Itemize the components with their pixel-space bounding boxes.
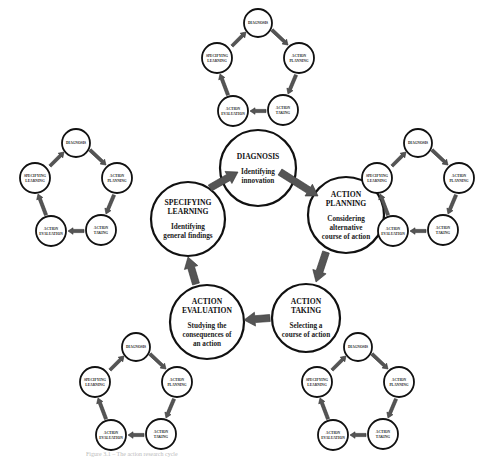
label-line: PLANNING xyxy=(389,383,408,387)
sub-node-specifying-learning: SPECIFYINGLEARNING xyxy=(362,163,392,193)
sub-arrow-3 xyxy=(410,228,426,235)
sub-arrow-2 xyxy=(165,398,176,418)
label-line: ACTION xyxy=(154,430,169,434)
label-line: TAKING xyxy=(376,435,391,439)
sub-node-diagnosis: DIAGNOSIS xyxy=(62,129,90,157)
label-line: EVALUATION xyxy=(39,232,63,236)
label-line: Studying the xyxy=(188,322,227,330)
label-line: PLANNING xyxy=(167,383,186,387)
label-line: LEARNING xyxy=(307,383,327,387)
sub-node-diagnosis: DIAGNOSIS xyxy=(122,333,150,361)
sub-node-action-evaluation: ACTIONEVALUATION xyxy=(378,216,408,246)
label-line: ACTION xyxy=(104,431,119,435)
label-line: LEARNING xyxy=(367,179,387,183)
label-line: PLANNING xyxy=(289,59,308,63)
label-line: EVALUATION xyxy=(99,436,123,440)
main-arrow-evaluation-to-learning xyxy=(184,257,199,285)
label-line: SPECIFYING xyxy=(306,378,328,382)
main-node-action-taking: ACTIONTAKINGSelecting acourse of action xyxy=(272,284,340,352)
label-line: Considering xyxy=(327,215,365,223)
sub-arrow-3 xyxy=(128,432,144,439)
sub-node-action-taking: ACTIONTAKING xyxy=(86,215,116,245)
figure-caption: Figure 3.1 – The action research cycle xyxy=(86,451,178,457)
label-line: TAKING xyxy=(436,231,451,235)
sub-arrow-1 xyxy=(271,29,288,45)
label-line: DIAGNOSIS xyxy=(66,141,86,145)
sub-arrow-4 xyxy=(319,398,330,420)
main-node-circle xyxy=(272,284,340,352)
sub-node-action-taking: ACTIONTAKING xyxy=(146,419,176,449)
label-line: ACTION xyxy=(291,297,322,306)
sub-arrow-4 xyxy=(219,74,230,96)
label-line: DIAGNOSIS xyxy=(237,152,280,161)
label-line: consequences of xyxy=(183,331,233,339)
sub-node-action-taking: ACTIONTAKING xyxy=(428,215,458,245)
label-line: SPECIFYING xyxy=(84,378,106,382)
sub-arrow-2 xyxy=(105,194,116,214)
label-line: EVALUATION xyxy=(182,306,232,315)
sub-arrow-3 xyxy=(350,432,366,439)
label-line: SPECIFYING xyxy=(366,174,388,178)
sub-arrow-0 xyxy=(109,356,124,371)
main-node-circle xyxy=(151,182,225,256)
action-research-diagram: DIAGNOSISIdentifyinginnovationACTIONPLAN… xyxy=(0,0,496,459)
sub-arrow-0 xyxy=(49,152,64,167)
sub-node-action-taking: ACTIONTAKING xyxy=(268,95,298,125)
sub-node-action-taking: ACTIONTAKING xyxy=(368,419,398,449)
label-line: ACTION xyxy=(192,297,223,306)
sub-cycle-bottom-left: DIAGNOSISACTIONPLANNINGACTIONTAKINGACTIO… xyxy=(80,333,192,450)
label-line: Selecting a xyxy=(290,322,323,330)
label-line: ACTION xyxy=(276,106,291,110)
label-line: course of action xyxy=(282,331,330,339)
label-line: DIAGNOSIS xyxy=(348,345,368,349)
label-line: EVALUATION xyxy=(321,436,345,440)
sub-arrow-0 xyxy=(391,152,406,167)
label-line: general findings xyxy=(163,232,213,240)
label-line: LEARNING xyxy=(25,179,45,183)
label-line: LEARNING xyxy=(85,383,105,387)
sub-node-action-planning: ACTIONPLANNING xyxy=(162,367,192,397)
label-line: TAKING xyxy=(276,111,291,115)
sub-node-diagnosis: DIAGNOSIS xyxy=(344,333,372,361)
label-line: ACTION xyxy=(170,378,185,382)
sub-node-diagnosis: DIAGNOSIS xyxy=(404,129,432,157)
main-node-action-evaluation: ACTIONEVALUATIONStudying theconsequences… xyxy=(170,285,244,359)
sub-arrow-1 xyxy=(431,149,448,165)
sub-node-action-evaluation: ACTIONEVALUATION xyxy=(36,216,66,246)
sub-arrow-4 xyxy=(97,398,108,420)
label-line: EVALUATION xyxy=(221,112,245,116)
main-arrow-taking-to-evaluation xyxy=(244,312,270,326)
label-line: alternative xyxy=(329,224,362,232)
sub-arrow-4 xyxy=(37,194,48,216)
label-line: ACTION xyxy=(326,431,341,435)
label-line: ACTION xyxy=(452,174,467,178)
label-line: SPECIFYING xyxy=(24,174,46,178)
sub-node-action-evaluation: ACTIONEVALUATION xyxy=(218,96,248,126)
sub-node-specifying-learning: SPECIFYINGLEARNING xyxy=(20,163,50,193)
label-line: ACTION xyxy=(44,227,59,231)
label-line: SPECIFYING xyxy=(206,54,228,58)
label-line: ACTION xyxy=(292,54,307,58)
sub-node-diagnosis: DIAGNOSIS xyxy=(244,9,272,37)
label-line: ACTION xyxy=(331,190,362,199)
sub-cycle-left: DIAGNOSISACTIONPLANNINGACTIONTAKINGACTIO… xyxy=(20,129,132,246)
sub-arrow-2 xyxy=(447,194,458,214)
main-cycle: DIAGNOSISIdentifyinginnovationACTIONPLAN… xyxy=(151,130,384,359)
label-line: ACTION xyxy=(94,226,109,230)
main-arrow-planning-to-taking xyxy=(313,251,330,282)
sub-node-action-planning: ACTIONPLANNING xyxy=(384,367,414,397)
label-line: TAKING xyxy=(154,435,169,439)
sub-arrow-1 xyxy=(371,353,388,369)
sub-arrow-0 xyxy=(231,32,246,47)
label-line: TAKING xyxy=(291,306,321,315)
sub-arrow-3 xyxy=(250,108,266,115)
label-line: ACTION xyxy=(110,174,125,178)
label-line: ACTION xyxy=(226,107,241,111)
label-line: DIAGNOSIS xyxy=(248,21,268,25)
label-line: EVALUATION xyxy=(381,232,405,236)
label-line: DIAGNOSIS xyxy=(126,345,146,349)
sub-node-action-evaluation: ACTIONEVALUATION xyxy=(96,420,126,450)
sub-arrow-2 xyxy=(387,398,398,418)
main-node-diagnosis: DIAGNOSISIdentifyinginnovation xyxy=(220,130,296,206)
sub-arrow-1 xyxy=(149,353,166,369)
